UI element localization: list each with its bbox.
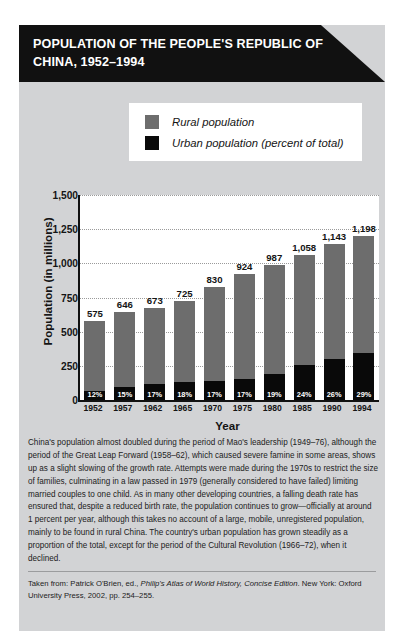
bar-rural-segment[interactable]: 17% xyxy=(204,287,225,400)
bar-urban-segment[interactable]: 29% xyxy=(353,353,374,400)
bar-urban-segment[interactable]: 12% xyxy=(84,391,105,400)
x-tick-label: 1990 xyxy=(322,403,343,413)
x-tick-label: 1952 xyxy=(82,403,103,413)
bar-rural-segment[interactable]: 19% xyxy=(264,265,285,400)
bar-column[interactable]: 1,05824% xyxy=(294,195,315,400)
y-tick-label: 750 xyxy=(33,292,78,303)
divider xyxy=(28,571,376,572)
bar-percent-label: 26% xyxy=(324,391,345,398)
source-citation: Taken from: Patrick O'Brien, ed., Philip… xyxy=(28,578,378,602)
bar-column[interactable]: 67317% xyxy=(144,195,165,400)
bar-urban-segment[interactable]: 17% xyxy=(144,384,165,400)
bar-urban-segment[interactable]: 15% xyxy=(114,387,135,400)
bar-percent-label: 12% xyxy=(84,391,105,398)
bar-rural-segment[interactable]: 29% xyxy=(353,236,374,400)
figure-card: POPULATION OF THE PEOPLE'S REPUBLIC OF C… xyxy=(19,25,385,631)
legend-item-urban: Urban population (percent of total) xyxy=(145,135,343,151)
bar-rural-segment[interactable]: 17% xyxy=(144,308,165,400)
bar-urban-segment[interactable]: 26% xyxy=(324,359,345,400)
y-tick-label: 500 xyxy=(33,326,78,337)
bar-urban-segment[interactable]: 17% xyxy=(234,379,255,400)
page-title: POPULATION OF THE PEOPLE'S REPUBLIC OF C… xyxy=(33,35,323,72)
bar-value-label: 725 xyxy=(177,288,193,299)
bar-column[interactable]: 1,14326% xyxy=(324,195,345,400)
bar-column[interactable]: 83017% xyxy=(204,195,225,400)
bar-column[interactable]: 1,19829% xyxy=(353,195,374,400)
legend-label-rural: Rural population xyxy=(172,116,254,128)
plot-area: 57512%64615%67317%72518%83017%92417%9871… xyxy=(78,195,379,402)
bar-percent-label: 29% xyxy=(353,391,374,398)
bar-chart: Population (in millions) 1,5001,2501,000… xyxy=(19,175,385,440)
bar-value-label: 830 xyxy=(206,274,222,285)
x-tick-label: 1962 xyxy=(142,403,163,413)
bar-percent-label: 19% xyxy=(264,391,285,398)
x-tick-label: 1965 xyxy=(172,403,193,413)
y-tick-label: 0 xyxy=(33,395,78,406)
bar-column[interactable]: 92417% xyxy=(234,195,255,400)
bar-column[interactable]: 72518% xyxy=(174,195,195,400)
bar-group: 57512%64615%67317%72518%83017%92417%9871… xyxy=(80,195,379,400)
source-work-title: Philip's Atlas of World History, Concise… xyxy=(141,579,298,588)
bar-rural-segment[interactable]: 24% xyxy=(294,255,315,400)
bar-rural-segment[interactable]: 26% xyxy=(324,244,345,400)
legend-item-rural: Rural population xyxy=(145,114,254,130)
bar-urban-segment[interactable]: 19% xyxy=(264,374,285,400)
bar-percent-label: 17% xyxy=(234,391,255,398)
chart-legend: Rural population Urban population (perce… xyxy=(129,103,362,161)
bar-rural-segment[interactable]: 18% xyxy=(174,301,195,400)
bar-value-label: 987 xyxy=(266,252,282,263)
x-axis-label: Year xyxy=(78,419,377,432)
bar-value-label: 924 xyxy=(236,261,252,272)
y-tick-label: 250 xyxy=(33,360,78,371)
x-tick-label: 1980 xyxy=(262,403,283,413)
y-axis-ticks: 1,5001,2501,0007505002500 xyxy=(33,195,78,400)
figure-page: POPULATION OF THE PEOPLE'S REPUBLIC OF C… xyxy=(0,0,400,644)
x-tick-label: 1975 xyxy=(232,403,253,413)
bar-percent-label: 17% xyxy=(144,391,165,398)
bar-column[interactable]: 98719% xyxy=(264,195,285,400)
description-paragraph: China's population almost doubled during… xyxy=(28,437,378,566)
bar-value-label: 646 xyxy=(117,299,133,310)
source-prefix: Taken from: Patrick O'Brien, ed., xyxy=(28,579,141,588)
bar-percent-label: 18% xyxy=(174,391,195,398)
x-axis-ticks: 1952195719621965197019751980198519901994 xyxy=(78,403,377,413)
bar-value-label: 1,198 xyxy=(352,223,376,234)
bar-urban-segment[interactable]: 24% xyxy=(294,365,315,400)
y-tick-label: 1,500 xyxy=(33,190,78,201)
bar-column[interactable]: 64615% xyxy=(114,195,135,400)
x-tick-label: 1970 xyxy=(202,403,223,413)
bar-rural-segment[interactable]: 15% xyxy=(114,312,135,400)
bar-value-label: 575 xyxy=(87,308,103,319)
rural-swatch xyxy=(145,115,159,129)
legend-label-urban: Urban population (percent of total) xyxy=(172,137,343,149)
urban-swatch xyxy=(145,136,159,150)
y-tick-label: 1,000 xyxy=(33,258,78,269)
x-tick-label: 1985 xyxy=(292,403,313,413)
bar-rural-segment[interactable]: 17% xyxy=(234,274,255,400)
bar-percent-label: 24% xyxy=(294,391,315,398)
bar-value-label: 1,143 xyxy=(322,231,346,242)
title-banner: POPULATION OF THE PEOPLE'S REPUBLIC OF C… xyxy=(19,25,385,82)
bar-rural-segment[interactable]: 12% xyxy=(84,321,105,400)
bar-urban-segment[interactable]: 18% xyxy=(174,382,195,400)
y-tick-label: 1,250 xyxy=(33,224,78,235)
bar-value-label: 1,058 xyxy=(292,242,316,253)
bar-percent-label: 15% xyxy=(114,391,135,398)
bar-urban-segment[interactable]: 17% xyxy=(204,381,225,400)
x-tick-label: 1957 xyxy=(112,403,133,413)
x-tick-label: 1994 xyxy=(351,403,372,413)
bar-percent-label: 17% xyxy=(204,391,225,398)
bar-column[interactable]: 57512% xyxy=(84,195,105,400)
bar-value-label: 673 xyxy=(147,295,163,306)
